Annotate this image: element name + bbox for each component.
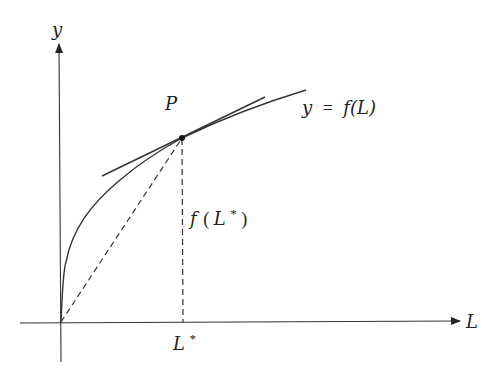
point-p-label: P <box>164 93 178 114</box>
production-curve <box>61 90 306 322</box>
vertical-dashed-line <box>182 139 183 322</box>
y-axis-label: y <box>51 19 63 40</box>
x-axis-label: L <box>465 311 478 332</box>
x-tick-label: L * <box>172 331 196 354</box>
point-p-marker <box>179 135 185 141</box>
x-axis <box>20 321 460 323</box>
production-function-diagram: y L P y = f(L) f ( L * ) L * <box>0 0 492 381</box>
height-label: f ( L * ) <box>188 202 247 230</box>
curve-label: y = f(L) <box>301 97 376 118</box>
average-product-ray <box>61 138 182 322</box>
